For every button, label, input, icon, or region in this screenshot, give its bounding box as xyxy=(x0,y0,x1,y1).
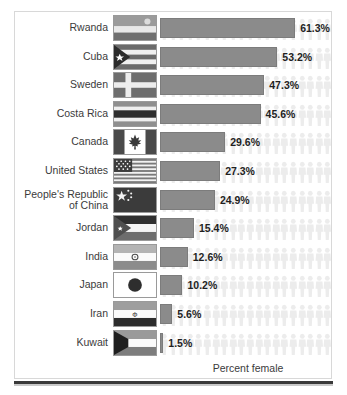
flag-india-icon xyxy=(113,244,157,270)
bar xyxy=(160,132,225,152)
chart-row: Costa Rica 45.6% xyxy=(0,100,347,128)
chart-row: Iran Φ 5.6% xyxy=(0,300,347,328)
bar-value-label: 61.3% xyxy=(300,22,330,34)
flag-japan-icon xyxy=(113,272,157,298)
bar-value-label: 1.5% xyxy=(168,337,192,349)
flag-costa-rica-icon xyxy=(113,101,157,127)
chart-row: Kuwait 1.5% xyxy=(0,329,347,357)
flag-kuwait-icon xyxy=(113,330,157,356)
country-label: Iran xyxy=(0,308,108,320)
country-label: Jordan xyxy=(0,222,108,234)
country-label: Cuba xyxy=(0,51,108,63)
flag-china-icon xyxy=(113,187,157,213)
bar-value-label: 47.3% xyxy=(269,79,299,91)
bar xyxy=(160,75,264,95)
bar xyxy=(160,304,172,324)
bar xyxy=(160,275,182,295)
bar xyxy=(160,190,215,210)
bar xyxy=(160,47,277,67)
flag-rwanda-icon xyxy=(113,15,157,41)
bar xyxy=(160,218,194,238)
chart-figure: Rwanda 61.3%Cuba 53.2%Sweden 47.3%Costa … xyxy=(0,0,347,395)
chart-row: Cuba 53.2% xyxy=(0,43,347,71)
flag-sweden-icon xyxy=(113,72,157,98)
country-label: Japan xyxy=(0,280,108,292)
x-axis-caption: Percent female xyxy=(160,362,336,374)
chart-row: People's Republic of China 24.9% xyxy=(0,186,347,214)
bottom-rule-shadow xyxy=(14,384,333,386)
bar-value-label: 5.6% xyxy=(177,308,201,320)
bar-value-label: 10.2% xyxy=(187,279,217,291)
country-label: Canada xyxy=(0,137,108,149)
chart-row: Sweden 47.3% xyxy=(0,71,347,99)
country-label: Sweden xyxy=(0,79,108,91)
bar-value-label: 29.6% xyxy=(230,136,260,148)
flag-iran-icon: Φ xyxy=(113,301,157,327)
country-label: Kuwait xyxy=(0,337,108,349)
country-label: United States xyxy=(0,165,108,177)
country-label: Costa Rica xyxy=(0,108,108,120)
chart-row: Jordan 15.4% xyxy=(0,214,347,242)
bar xyxy=(160,161,220,181)
country-label: People's Republic of China xyxy=(0,188,108,211)
flag-canada-icon xyxy=(113,129,157,155)
chart-row: United States 27.3% xyxy=(0,157,347,185)
bar xyxy=(160,104,261,124)
bar-value-label: 27.3% xyxy=(225,165,255,177)
bar-value-label: 24.9% xyxy=(220,194,250,206)
chart-row: Canada 29.6% xyxy=(0,128,347,156)
bar-chart-plot: Rwanda 61.3%Cuba 53.2%Sweden 47.3%Costa … xyxy=(0,0,347,395)
flag-cuba-icon xyxy=(113,44,157,70)
country-label: Rwanda xyxy=(0,22,108,34)
svg-text:Φ: Φ xyxy=(132,311,137,319)
bar xyxy=(160,333,163,353)
chart-row: Japan 10.2% xyxy=(0,271,347,299)
bar-value-label: 53.2% xyxy=(282,51,312,63)
flag-united-states-icon xyxy=(113,158,157,184)
flag-jordan-icon xyxy=(113,215,157,241)
chart-row: India 12.6% xyxy=(0,243,347,271)
bar-value-label: 12.6% xyxy=(193,251,223,263)
country-label: India xyxy=(0,251,108,263)
chart-row: Rwanda 61.3% xyxy=(0,14,347,42)
bar-value-label: 15.4% xyxy=(199,222,229,234)
bar xyxy=(160,247,188,267)
bar-value-label: 45.6% xyxy=(266,108,296,120)
bar xyxy=(160,18,295,38)
